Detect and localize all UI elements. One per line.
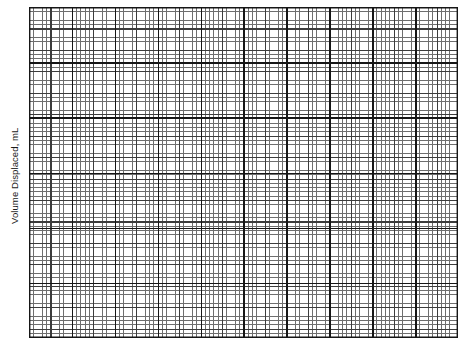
y-axis-label: Volume Displaced, mL: [0, 0, 29, 351]
graph-paper-figure: Volume Displaced, mL: [0, 0, 474, 351]
grid-plot-area: [29, 7, 458, 338]
y-axis-label-text: Volume Displaced, mL: [10, 127, 20, 224]
grid-bottom-border: [29, 337, 458, 338]
grid-right-border: [457, 7, 458, 338]
